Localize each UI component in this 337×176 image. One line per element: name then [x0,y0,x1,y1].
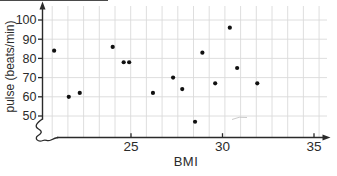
y-axis-label: pulse (beats/min) [3,20,17,112]
y-tick-label: 70 [23,71,37,85]
data-point [78,91,82,95]
tick-labels: 5060708090100253035 [16,13,322,154]
data-point [193,120,197,124]
figure-scatter-bmi-pulse: 5060708090100253035 BMI pulse (beats/min… [0,0,337,176]
scan-artifact-smudge [232,117,247,119]
y-tick-label: 60 [23,90,37,104]
y-tick-label: 90 [23,33,37,47]
data-point [111,45,115,49]
x-tick-label: 35 [306,139,321,154]
x-axis-label: BMI [174,154,199,169]
data-point [171,76,175,80]
data-point [127,60,131,64]
y-tick-label: 50 [23,109,37,123]
y-tick-label: 100 [16,13,37,27]
data-point [180,87,184,91]
data-points [52,26,259,124]
tick-marks [38,20,314,138]
data-point [255,81,259,85]
data-point [67,95,71,99]
data-point [122,60,126,64]
data-point [52,49,56,53]
data-point [235,66,239,70]
scatter-plot: 5060708090100253035 BMI pulse (beats/min… [0,0,337,176]
data-point [228,26,232,30]
x-tick-label: 25 [123,139,138,154]
y-axis-arrow-icon [40,2,46,10]
data-point [213,81,217,85]
y-axis-break-squiggle [36,119,58,141]
grid-lines [43,6,328,138]
x-tick-label: 30 [215,139,230,154]
axes [36,2,330,142]
y-tick-label: 80 [23,52,37,66]
data-point [200,51,204,55]
data-point [151,91,155,95]
x-axis-arrow-icon [323,134,331,140]
